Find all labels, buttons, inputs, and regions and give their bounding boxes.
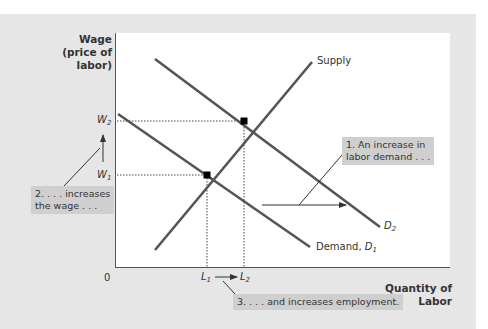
l2-label: L2	[240, 271, 250, 286]
y-axis-title-line2: (price of	[40, 46, 112, 59]
w1-label: W1	[97, 169, 111, 184]
equilibrium-point-1	[204, 172, 211, 179]
note2-pointer	[64, 148, 100, 186]
y-axis-title: Wage (price of labor)	[40, 33, 112, 72]
note3-pointer	[223, 281, 235, 294]
note-employment-increase: 3. . . . and increases employment.	[233, 294, 403, 310]
demand-d1-curve	[118, 114, 310, 247]
y-axis-title-line3: labor)	[40, 59, 112, 72]
note1-line2: labor demand . . .	[346, 151, 430, 163]
note2-line2: the wage . . .	[35, 200, 110, 212]
note2-line1: 2. . . . increases	[35, 188, 110, 200]
demand-d2-label: D2	[384, 220, 396, 235]
note1-pointer	[299, 155, 342, 205]
note1-line1: 1. An increase in	[346, 139, 430, 151]
equilibrium-point-2	[241, 118, 248, 125]
origin-label: 0	[104, 272, 110, 284]
note-demand-increase: 1. An increase in labor demand . . .	[342, 137, 434, 165]
l1-label: L1	[201, 271, 211, 286]
demand-d1-label: Demand, D1	[316, 241, 377, 256]
supply-label: Supply	[317, 55, 351, 67]
note-wage-increase: 2. . . . increases the wage . . .	[31, 186, 114, 214]
y-axis-title-line1: Wage	[40, 33, 112, 46]
w2-label: W2	[97, 114, 111, 129]
